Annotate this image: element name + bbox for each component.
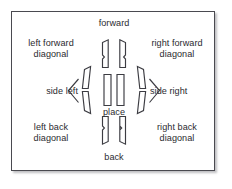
label-side-left: side left: [20, 86, 78, 97]
place-feet-icon: [104, 75, 124, 106]
label-left-back-diagonal: left back diagonal: [14, 122, 88, 143]
label-back: back: [74, 152, 154, 163]
footwork-diagram: forward back left forward diagonal right…: [0, 0, 232, 189]
diagram-stage: forward back left forward diagonal right…: [12, 12, 216, 172]
diagram-frame: forward back left forward diagonal right…: [11, 11, 215, 171]
label-left-forward-diagonal: left forward diagonal: [14, 38, 88, 59]
label-side-right: side right: [150, 86, 208, 97]
label-right-forward-diagonal: right forward diagonal: [140, 38, 214, 59]
label-forward: forward: [74, 18, 154, 29]
back-feet-icon: [103, 117, 126, 145]
forward-feet-icon: [103, 40, 126, 68]
label-right-back-diagonal: right back diagonal: [140, 122, 214, 143]
label-place: place: [84, 107, 144, 118]
